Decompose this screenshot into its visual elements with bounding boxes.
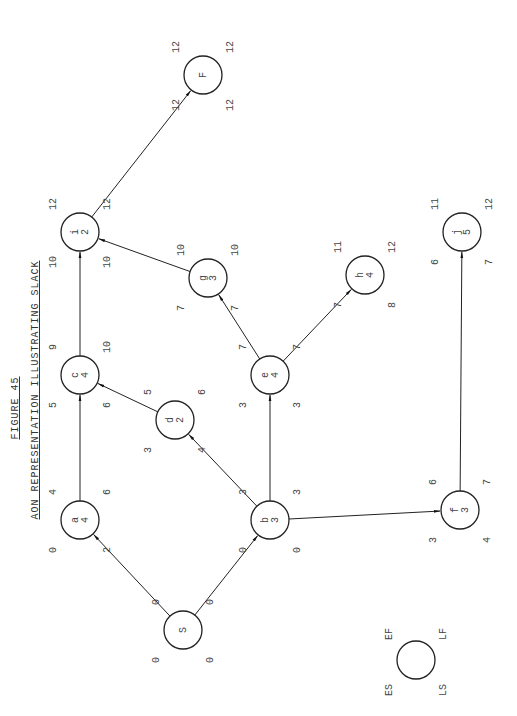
node-es: 3 xyxy=(238,402,249,408)
node-name: S xyxy=(178,627,189,633)
legend-node xyxy=(397,641,435,679)
node-es: 6 xyxy=(430,259,441,265)
aon-network-diagram: FIGURE 45 AON REPRESENTATION ILLUSTRATIN… xyxy=(0,0,517,716)
node-ef: 9 xyxy=(48,344,59,350)
node-duration: 3 xyxy=(208,275,219,281)
node-lf: 0 xyxy=(205,599,216,605)
legend-ef: EF xyxy=(384,628,395,640)
node-ef: 6 xyxy=(428,479,439,485)
node-F: F12121212 xyxy=(171,41,236,111)
node-es: 7 xyxy=(333,302,344,308)
edge-f-j xyxy=(460,252,462,491)
node-d: d23546 xyxy=(143,389,208,453)
figure-title-group: FIGURE 45 AON REPRESENTATION ILLUSTRATIN… xyxy=(10,260,41,519)
node-duration: 4 xyxy=(80,372,91,378)
node-ls: 6 xyxy=(102,402,113,408)
node-lf: 10 xyxy=(102,341,113,353)
node-es: 5 xyxy=(48,402,59,408)
node-es: 7 xyxy=(176,305,187,311)
node-ef: 4 xyxy=(48,489,59,495)
node-ef: 10 xyxy=(176,244,187,256)
node-es: 12 xyxy=(171,99,182,111)
node-ls: 4 xyxy=(482,537,493,543)
node-ef: 5 xyxy=(143,389,154,395)
node-duration: 2 xyxy=(80,229,91,235)
node-lf: 10 xyxy=(230,244,241,256)
node-ls: 10 xyxy=(102,256,113,268)
node-lf: 12 xyxy=(387,241,398,253)
node-ef: 0 xyxy=(151,599,162,605)
node-lf: 6 xyxy=(102,489,113,495)
legend-lf: LF xyxy=(438,628,449,640)
legend-es: ES xyxy=(384,684,395,696)
node-ls: 7 xyxy=(230,305,241,311)
node-duration: 4 xyxy=(365,272,376,278)
node-es: 0 xyxy=(48,547,59,553)
node-j: j5611712 xyxy=(430,198,495,265)
node-ef: 3 xyxy=(238,489,249,495)
node-S: S0000 xyxy=(151,599,216,663)
node-lf: 12 xyxy=(102,198,113,210)
node-name: F xyxy=(198,72,209,78)
node-lf: 6 xyxy=(197,389,208,395)
node-duration: 3 xyxy=(460,507,471,513)
node-ef: 11 xyxy=(333,241,344,253)
node-lf: 7 xyxy=(482,479,493,485)
node-duration: 2 xyxy=(175,417,186,423)
node-lf: 3 xyxy=(292,489,303,495)
node-es: 0 xyxy=(151,657,162,663)
node-ef: 11 xyxy=(430,198,441,210)
node-es: 3 xyxy=(143,447,154,453)
node-ls: 0 xyxy=(292,547,303,553)
node-lf: 7 xyxy=(292,344,303,350)
node-es: 0 xyxy=(238,547,249,553)
node-ls: 0 xyxy=(205,657,216,663)
node-es: 10 xyxy=(48,256,59,268)
node-ls: 12 xyxy=(225,99,236,111)
figure-title: AON REPRESENTATION ILLUSTRATING SLACK xyxy=(30,260,41,519)
legend-ls: LS xyxy=(438,684,449,696)
node-duration: 4 xyxy=(80,517,91,523)
node-ls: 2 xyxy=(102,547,113,553)
node-ef: 12 xyxy=(48,198,59,210)
node-g: g3710710 xyxy=(176,244,241,311)
node-lf: 12 xyxy=(484,198,495,210)
node-ef: 7 xyxy=(238,344,249,350)
nodes-layer: S0000a40426b30303c459610d23546e43737f336… xyxy=(48,41,495,663)
node-ls: 4 xyxy=(197,447,208,453)
legend: ES EF LS LF xyxy=(384,628,449,696)
node-duration: 4 xyxy=(270,372,281,378)
figure-number: FIGURE 45 xyxy=(10,376,21,439)
node-ls: 8 xyxy=(387,302,398,308)
node-ls: 3 xyxy=(292,402,303,408)
node-es: 3 xyxy=(428,537,439,543)
node-ls: 7 xyxy=(484,259,495,265)
node-lf: 12 xyxy=(225,41,236,53)
node-duration: 3 xyxy=(270,517,281,523)
edge-b-f xyxy=(289,511,440,519)
node-duration: 5 xyxy=(462,229,473,235)
node-ef: 12 xyxy=(171,41,182,53)
